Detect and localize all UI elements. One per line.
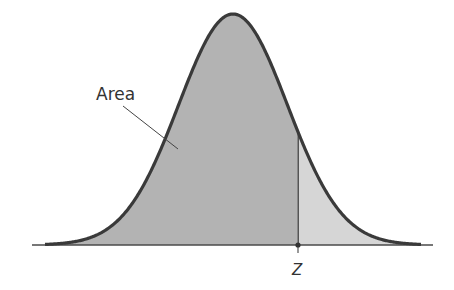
- normal-curve-svg: Area Z: [0, 0, 454, 290]
- normal-curve-figure: Area Z: [0, 0, 454, 290]
- shaded-area-region: [45, 14, 298, 245]
- area-label: Area: [96, 84, 135, 104]
- z-label: Z: [291, 261, 303, 279]
- z-point: [295, 242, 300, 247]
